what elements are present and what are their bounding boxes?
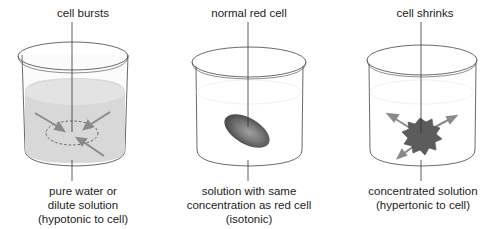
label-hypertonic-solution: concentrated solution (hypertonic to cel… <box>340 184 498 212</box>
label-line: solution with same <box>166 184 332 198</box>
panel-hypotonic: cell bursts pure water or dilute solutio… <box>0 0 166 229</box>
panel-isotonic: normal red cell solution with same conce… <box>166 0 332 229</box>
label-line: concentrated solution <box>340 184 498 198</box>
panel-hypertonic: cell shrinks concentrated solution (hype… <box>332 0 498 229</box>
label-line: concentration as red cell <box>166 198 332 212</box>
label-cell-shrinks: cell shrinks <box>342 6 498 20</box>
label-hypotonic-solution: pure water or dilute solution (hypotonic… <box>0 184 166 226</box>
label-line: dilute solution <box>0 198 166 212</box>
label-line: (hypotonic to cell) <box>0 212 166 226</box>
label-line: pure water or <box>0 184 166 198</box>
label-line: (hypertonic to cell) <box>340 198 498 212</box>
label-cell-bursts: cell bursts <box>0 6 166 20</box>
label-isotonic-solution: solution with same concentration as red … <box>166 184 332 226</box>
label-line: (isotonic) <box>166 212 332 226</box>
label-normal-red-cell: normal red cell <box>166 6 332 20</box>
